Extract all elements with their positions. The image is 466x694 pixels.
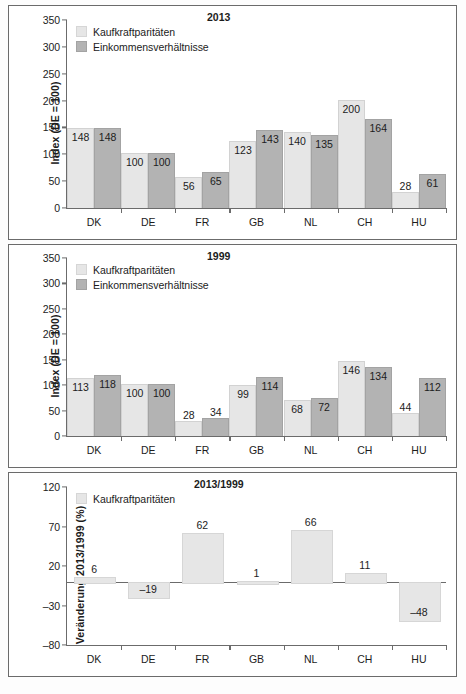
y-tick-label: 350 [43, 252, 67, 264]
bar-value-label: 143 [261, 133, 279, 145]
y-tick-label: 50 [49, 175, 67, 187]
x-tick-label-hu: HU [411, 216, 426, 228]
x-tick-label-ch: CH [357, 653, 372, 665]
y-tick-label: 100 [43, 148, 67, 160]
y-tick-label: 70 [49, 521, 67, 533]
bar-hu-series2[interactable]: 112 [419, 378, 446, 436]
bar-value-label: 140 [288, 135, 306, 147]
bar-gb-series2[interactable]: 143 [256, 130, 283, 208]
x-axis-tick [175, 645, 176, 650]
x-tick-label-hu: HU [411, 653, 426, 665]
x-tick-label-fr: FR [195, 653, 209, 665]
bar-value-label: 114 [262, 380, 279, 392]
category-group: 146134CH [338, 258, 392, 436]
x-axis-tick [284, 645, 285, 650]
category-group: 6872NL [284, 258, 338, 436]
x-axis-tick [229, 645, 230, 650]
y-tick-label: 300 [43, 277, 67, 289]
category-group: 123143GB [229, 20, 283, 208]
x-tick-label-de: DE [141, 216, 156, 228]
bar-value-label: 148 [72, 131, 90, 143]
category-group: 44112HU [392, 258, 446, 436]
bar-value-label: 11 [359, 559, 370, 571]
bar-nl-series2[interactable]: 72 [311, 398, 338, 436]
x-axis-tick [392, 645, 393, 650]
bar-hu-series1[interactable]: 44 [392, 413, 419, 436]
category-group: 2834FR [175, 258, 229, 436]
bar-value-label: 72 [318, 401, 330, 413]
x-axis-tick [392, 208, 393, 213]
chart-panel-change: Veränderung 2013/1999 (%) 2013/1999 Kauf… [8, 472, 457, 677]
y-tick-label: –80 [43, 639, 67, 651]
x-axis-tick [284, 208, 285, 213]
bar-value-label: 113 [72, 381, 89, 393]
plot-area-1999: Kaufkraftparitäten Einkommensverhältniss… [66, 258, 446, 437]
bar-value-label: 100 [153, 387, 171, 399]
bar-fr[interactable] [182, 533, 224, 584]
x-tick-label-ch: CH [357, 216, 372, 228]
x-axis-tick [121, 645, 122, 650]
y-tick-label: 50 [49, 405, 67, 417]
bar-value-label: 1 [254, 567, 260, 579]
x-tick-label-gb: GB [249, 653, 264, 665]
bar-nl[interactable] [291, 530, 333, 584]
bar-de-series2[interactable]: 100 [148, 384, 175, 436]
bar-dk-series1[interactable]: 148 [67, 128, 94, 208]
bar-fr-series1[interactable]: 56 [175, 177, 202, 208]
category-group: 99114GB [229, 258, 283, 436]
y-tick-label: 200 [43, 95, 67, 107]
bar-value-label: 135 [315, 138, 333, 150]
bar-ch[interactable] [345, 573, 387, 584]
bar-dk-series2[interactable]: 118 [94, 375, 121, 436]
legend-panel3: Kaufkraftparitäten [76, 492, 175, 507]
bar-value-label: –48 [410, 606, 428, 618]
bar-dk[interactable] [74, 577, 116, 584]
bar-hu-series1[interactable]: 28 [392, 192, 419, 208]
bar-value-label: 68 [291, 403, 303, 415]
bar-hu-series2[interactable]: 61 [419, 174, 446, 208]
category-group: 140135NL [284, 20, 338, 208]
y-tick-label: 250 [43, 303, 67, 315]
bar-ch-series2[interactable]: 164 [365, 119, 392, 208]
bar-fr-series2[interactable]: 34 [202, 418, 229, 436]
bar-value-label: 44 [400, 401, 412, 413]
bar-gb-series1[interactable]: 123 [229, 141, 256, 208]
legend-label-kaufkraftparitaeten: Kaufkraftparitäten [93, 493, 175, 505]
bar-de-series1[interactable]: 100 [121, 384, 148, 436]
bar-fr-series2[interactable]: 65 [202, 172, 229, 208]
bar-value-label: 123 [234, 144, 252, 156]
y-tick-label: 300 [43, 41, 67, 53]
bar-value-label: 148 [99, 131, 117, 143]
bar-de-series1[interactable]: 100 [121, 153, 148, 208]
bar-nl-series1[interactable]: 140 [284, 132, 311, 208]
x-axis-tick [175, 436, 176, 441]
bar-ch-series1[interactable]: 200 [338, 100, 365, 208]
y-tick-label: –30 [43, 600, 67, 612]
bar-nl-series1[interactable]: 68 [284, 400, 311, 436]
bar-gb-series1[interactable]: 99 [229, 385, 256, 436]
chart-panel-2013: Index (DE = 100) 2013 Kaufkraftparitäten… [8, 5, 457, 240]
bar-value-label: 164 [370, 122, 388, 134]
bar-gb[interactable] [237, 581, 279, 585]
chart-panel-1999: Index (DE = 100) 1999 Kaufkraftparitäten… [8, 244, 457, 468]
bar-ch-series2[interactable]: 134 [365, 367, 392, 436]
legend-item-kaufkraftparitaeten: Kaufkraftparitäten [76, 492, 175, 505]
bar-ch-series1[interactable]: 146 [338, 361, 365, 436]
y-tick-label: 150 [43, 354, 67, 366]
bar-gb-series2[interactable]: 114 [256, 377, 283, 436]
x-axis-tick [121, 436, 122, 441]
category-group: 100100DE [121, 258, 175, 436]
bar-nl-series2[interactable]: 135 [311, 135, 338, 209]
x-tick-label-gb: GB [249, 216, 264, 228]
x-tick-label-dk: DK [87, 444, 102, 456]
plot-area-change: Kaufkraftparitäten –80–3020701206DK–19DE… [66, 487, 446, 646]
bar-dk-series2[interactable]: 148 [94, 128, 121, 208]
bar-de-series2[interactable]: 100 [148, 153, 175, 208]
bar-fr-series1[interactable]: 28 [175, 421, 202, 436]
bar-value-label: 34 [210, 406, 222, 418]
bar-dk-series1[interactable]: 113 [67, 378, 94, 436]
x-axis-tick [229, 208, 230, 213]
x-axis-tick [338, 208, 339, 213]
x-tick-label-dk: DK [87, 216, 102, 228]
bar-value-label: 56 [183, 180, 195, 192]
